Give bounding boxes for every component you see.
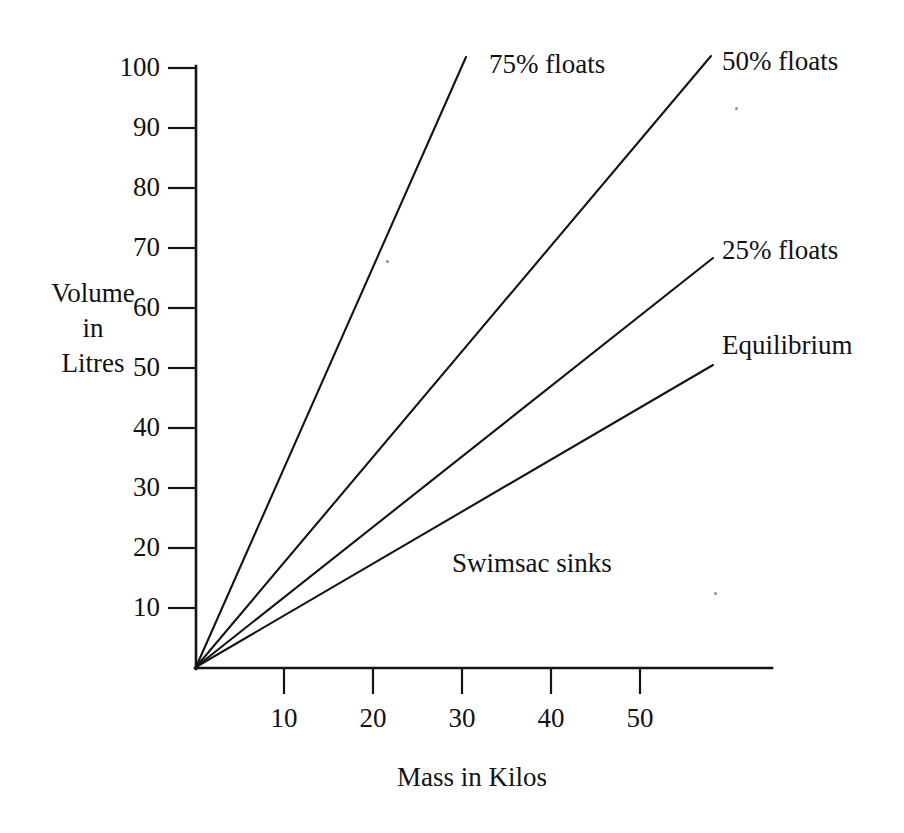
series-label-50-percent-floats: 50% floats: [722, 48, 838, 75]
y-axis-title-line-1: Volume: [28, 276, 158, 311]
series-line-75-percent-floats: [196, 57, 466, 667]
x-tick-label-40: 40: [511, 705, 591, 732]
x-tick-label-50: 50: [600, 705, 680, 732]
y-tick-label-70: 70: [76, 234, 160, 261]
y-axis-ticks: [168, 68, 196, 608]
y-tick-label-100: 100: [76, 54, 160, 81]
x-axis-ticks: [284, 668, 640, 694]
y-tick-label-30: 30: [76, 474, 160, 501]
y-tick-label-20: 20: [76, 534, 160, 561]
x-tick-label-20: 20: [333, 705, 413, 732]
y-tick-label-10: 10: [76, 594, 160, 621]
series-line-equilibrium: [196, 365, 713, 667]
x-tick-label-10: 10: [244, 705, 324, 732]
scan-speck: [386, 260, 389, 263]
y-axis-title-line-3: Litres: [28, 346, 158, 381]
x-tick-label-30: 30: [422, 705, 502, 732]
series-line-25-percent-floats: [196, 258, 713, 667]
y-tick-label-80: 80: [76, 174, 160, 201]
scan-speck: [735, 107, 738, 110]
chart-page: 100 90 80 70 60 50 40 30 20 10 10 20 30 …: [0, 0, 904, 833]
y-axis-title: Volume in Litres: [28, 276, 158, 381]
series-label-75-percent-floats: 75% floats: [489, 51, 605, 78]
x-axis-title: Mass in Kilos: [252, 764, 692, 791]
series-label-equilibrium: Equilibrium: [722, 332, 853, 359]
y-axis-title-line-2: in: [28, 311, 158, 346]
scan-speck: [714, 592, 717, 595]
series-label-25-percent-floats: 25% floats: [722, 237, 838, 264]
region-label-swimsac-sinks: Swimsac sinks: [452, 550, 612, 577]
y-tick-label-90: 90: [76, 114, 160, 141]
y-tick-label-40: 40: [76, 414, 160, 441]
